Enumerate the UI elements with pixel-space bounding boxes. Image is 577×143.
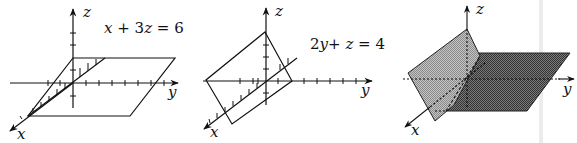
x-axis-label-3: x [411, 121, 420, 139]
x-axis [204, 58, 297, 129]
plane-x-plus-3z [28, 58, 175, 116]
panel-2 [203, 8, 372, 129]
hatch-marks [20, 59, 96, 119]
z-axis-label-1: z [82, 3, 91, 21]
z-axis-label-2: z [274, 2, 283, 20]
y-axis-label-1: y [167, 83, 177, 101]
z-axis-label-3: z [475, 0, 484, 18]
panel-3 [403, 6, 574, 127]
x-axis-label-2: x [210, 123, 219, 141]
x-axis-label-1: x [17, 125, 26, 143]
equation-2: 2y+ z = 4 [310, 35, 385, 53]
plane-2y-plus-z [206, 32, 292, 124]
y-axis-label-2: y [360, 81, 370, 99]
three-planes-figure: z y x x + 3z = 6 [0, 0, 577, 143]
y-axis-label-3: y [562, 80, 572, 98]
equation-1: x + 3z = 6 [104, 19, 184, 37]
